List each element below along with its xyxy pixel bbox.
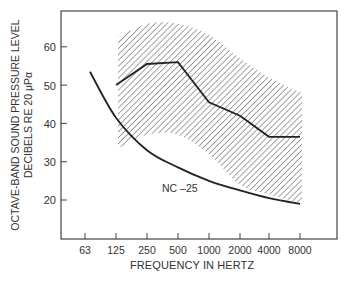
y-axis-label: OCTAVE-BAND SOUND PRESSURE LEVEL DECIBEL… <box>9 15 35 235</box>
y-tick-label-60: 60 <box>38 41 56 53</box>
x-tick-label-8000: 8000 <box>288 244 311 256</box>
y-tick-label-40: 40 <box>38 118 56 130</box>
x-tick-label-2000: 2000 <box>228 244 251 256</box>
x-axis-ticks <box>85 233 300 239</box>
x-tick-label-4000: 4000 <box>257 244 280 256</box>
x-tick-label-63: 63 <box>79 244 91 256</box>
x-axis-label: FREQUENCY IN HERTZ <box>130 259 254 271</box>
y-axis-label-line2: DECIBELS RE 20 μPα <box>22 15 35 235</box>
x-tick-label-125: 125 <box>107 244 125 256</box>
x-tick-label-250: 250 <box>138 244 156 256</box>
y-tick-label-50: 50 <box>38 80 56 92</box>
y-axis-label-line1: OCTAVE-BAND SOUND PRESSURE LEVEL <box>9 15 22 235</box>
y-axis-ticks <box>61 47 67 200</box>
x-tick-label-1000: 1000 <box>197 244 220 256</box>
y-tick-label-30: 30 <box>38 156 56 168</box>
y-tick-label-20: 20 <box>38 194 56 206</box>
x-tick-label-500: 500 <box>169 244 187 256</box>
nc-curve-label: NC –25 <box>162 182 198 194</box>
hatched-range-band <box>118 22 302 204</box>
